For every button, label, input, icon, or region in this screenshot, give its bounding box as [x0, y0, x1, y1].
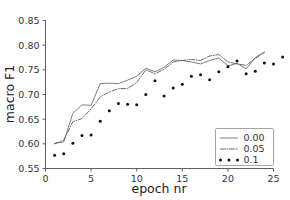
y-tick-label: 0.85	[18, 15, 39, 26]
data-point-marker	[71, 142, 74, 145]
data-point-marker	[254, 70, 257, 73]
data-point-marker	[90, 133, 93, 136]
y-tick-label: 0.70	[18, 89, 39, 100]
legend-sample-dotted	[228, 159, 231, 162]
data-point-marker	[236, 59, 239, 62]
x-tick-label: 0	[42, 173, 48, 184]
legend-sample-dotted	[219, 159, 222, 162]
chart-legend: 0.000.050.1	[216, 129, 274, 166]
data-point-marker	[172, 87, 175, 90]
y-tick-label: 0.55	[18, 163, 39, 174]
data-point-marker	[199, 73, 202, 76]
y-axis-label: macro F1	[2, 65, 17, 123]
data-point-marker	[217, 70, 220, 73]
y-tick-label: 0.80	[18, 40, 39, 51]
data-point-marker	[163, 94, 166, 97]
legend-label: 0.05	[244, 143, 265, 154]
y-tick-label: 0.60	[18, 138, 39, 149]
data-point-marker	[181, 83, 184, 86]
data-point-marker	[144, 93, 147, 96]
data-point-marker	[226, 65, 229, 68]
data-point-marker	[62, 152, 65, 155]
legend-sample-dotted	[236, 159, 239, 162]
data-point-marker	[208, 78, 211, 81]
chart-figure: 0.550.600.650.700.750.800.85 0510152025 …	[0, 0, 290, 200]
macro-f1-line-chart: 0.550.600.650.700.750.800.85 0510152025 …	[0, 0, 290, 200]
data-point-marker	[99, 120, 102, 123]
legend-label: 0.00	[244, 132, 265, 143]
data-point-marker	[263, 61, 266, 64]
x-tick-label: 5	[88, 173, 94, 184]
data-point-marker	[117, 102, 120, 105]
y-tick-label: 0.75	[18, 64, 39, 75]
y-tick-label: 0.65	[18, 114, 39, 125]
x-tick-label: 25	[267, 173, 279, 184]
y-axis-ticks: 0.550.600.650.700.750.800.85	[18, 15, 45, 174]
x-axis-label: epoch nr	[131, 181, 187, 196]
data-point-marker	[126, 103, 129, 106]
legend-label: 0.1	[244, 154, 259, 165]
data-point-marker	[190, 75, 193, 78]
data-point-marker	[135, 103, 138, 106]
data-point-marker	[80, 134, 83, 137]
data-point-marker	[245, 72, 248, 75]
x-tick-label: 20	[222, 173, 234, 184]
data-point-marker	[272, 62, 275, 65]
data-point-marker	[281, 56, 284, 59]
data-point-marker	[108, 109, 111, 112]
data-point-marker	[53, 154, 56, 157]
data-point-marker	[153, 79, 156, 82]
